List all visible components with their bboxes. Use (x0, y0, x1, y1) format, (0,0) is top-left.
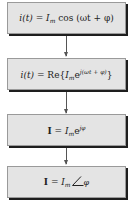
step-3-box: I = Imejφ (7, 114, 126, 146)
step-2-box: i(t) = Re{Imej(ωt + φ)} (7, 58, 126, 90)
arrow-down-1 (66, 36, 67, 56)
step-1-equation: i(t) = Im cos (ωt + φ) (19, 13, 113, 24)
step-3-equation: I = Imejφ (47, 124, 85, 137)
step-4-equation: I = Imφ (44, 176, 89, 188)
arrow-down-2 (66, 92, 67, 113)
arrow-down-3 (66, 148, 67, 164)
step-2-equation: i(t) = Re{Imej(ωt + φ)} (21, 68, 113, 81)
step-1-box: i(t) = Im cos (ωt + φ) (7, 2, 126, 34)
angle-icon (72, 176, 84, 186)
step-4-box: I = Imφ (7, 166, 126, 198)
